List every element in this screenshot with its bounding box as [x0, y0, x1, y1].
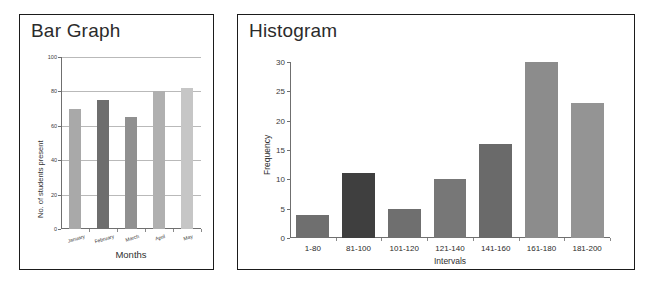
x-axis-category-label: 81-100	[346, 244, 371, 253]
x-axis-category-label: March	[125, 233, 140, 243]
bar-graph-x-axis-label: Months	[61, 249, 201, 260]
y-axis-tick	[287, 238, 290, 239]
histogram-y-axis-label: Frequency	[262, 135, 272, 175]
y-axis-tick-label: 15	[269, 146, 285, 155]
bar	[479, 144, 512, 238]
y-axis-tick-label: 40	[41, 157, 57, 163]
x-axis-category-label: 141-160	[481, 244, 510, 253]
x-axis-tick	[89, 229, 90, 232]
x-axis-tick	[201, 229, 202, 232]
bar	[571, 103, 604, 238]
y-axis-line	[61, 57, 62, 229]
y-axis-tick-label: 5	[269, 204, 285, 213]
x-axis-tick	[336, 238, 337, 241]
x-axis-category-label: May	[183, 233, 194, 241]
x-axis-tick	[145, 229, 146, 232]
histogram-chart: Frequency Intervals 0510152025301-8081-1…	[238, 15, 633, 268]
x-axis-category-label: 101-120	[390, 244, 419, 253]
histogram-panel: Histogram Frequency Intervals 0510152025…	[237, 14, 635, 270]
y-axis-tick-label: 0	[269, 234, 285, 243]
x-axis-tick	[473, 238, 474, 241]
bar	[97, 100, 108, 229]
gridline	[61, 91, 201, 92]
bar-graph-chart: No. of students present Months 020406080…	[20, 15, 212, 268]
x-axis-tick	[564, 238, 565, 241]
bar	[125, 117, 136, 229]
x-axis-tick	[173, 229, 174, 232]
bar	[342, 173, 375, 238]
y-axis-tick-label: 20	[41, 192, 57, 198]
x-axis-category-label: 161-180	[527, 244, 556, 253]
x-axis-tick	[381, 238, 382, 241]
bar	[434, 179, 467, 238]
x-axis-category-label: 181-200	[572, 244, 601, 253]
bar	[525, 62, 558, 238]
x-axis-category-label: April	[154, 233, 165, 242]
x-axis-category-label: 121-140	[435, 244, 464, 253]
x-axis-tick	[427, 238, 428, 241]
y-axis-tick-label: 100	[41, 54, 57, 60]
y-axis-tick-label: 80	[41, 88, 57, 94]
y-axis-tick-label: 0	[41, 226, 57, 232]
bar	[181, 88, 192, 229]
y-axis-tick-label: 30	[269, 58, 285, 67]
histogram-x-axis-label: Intervals	[290, 256, 610, 266]
bar	[296, 215, 329, 238]
x-axis-tick	[117, 229, 118, 232]
y-axis-line	[290, 62, 291, 238]
bar	[153, 91, 164, 229]
x-axis-tick	[519, 238, 520, 241]
y-axis-tick-label: 20	[269, 116, 285, 125]
x-axis-category-label: February	[94, 233, 115, 244]
histogram-plot-area	[290, 62, 610, 238]
y-axis-tick-label: 10	[269, 175, 285, 184]
bar-graph-y-axis-label: No. of students present	[36, 140, 45, 218]
bar-graph-panel: Bar Graph No. of students present Months…	[19, 14, 214, 270]
y-axis-tick	[58, 229, 61, 230]
y-axis-tick-label: 60	[41, 123, 57, 129]
bar	[388, 209, 421, 238]
x-axis-tick	[610, 238, 611, 241]
gridline	[61, 57, 201, 58]
x-axis-category-label: 1-80	[305, 244, 321, 253]
y-axis-tick-label: 25	[269, 87, 285, 96]
figure-canvas: Bar Graph No. of students present Months…	[0, 0, 651, 285]
bar	[69, 109, 80, 229]
x-axis-category-label: January	[67, 233, 86, 244]
bar-graph-plot-area	[61, 57, 201, 229]
